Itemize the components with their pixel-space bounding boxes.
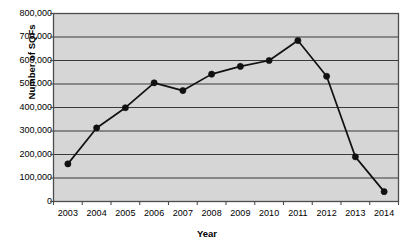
data-point-2009 (237, 63, 243, 69)
data-point-2012 (324, 73, 330, 79)
x-axis-title: Year (0, 228, 414, 239)
data-point-2014 (381, 189, 387, 195)
data-point-2004 (94, 125, 100, 131)
data-point-2008 (209, 71, 215, 77)
data-point-2010 (266, 57, 272, 63)
data-point-2011 (295, 37, 301, 43)
plot-area (0, 0, 414, 250)
data-point-2005 (122, 105, 128, 111)
data-point-2003 (65, 161, 71, 167)
data-point-2013 (352, 154, 358, 160)
data-point-2007 (180, 87, 186, 93)
line-chart: Number of SQFs 0100,000200,000300,000400… (0, 0, 414, 250)
data-point-2006 (151, 80, 157, 86)
